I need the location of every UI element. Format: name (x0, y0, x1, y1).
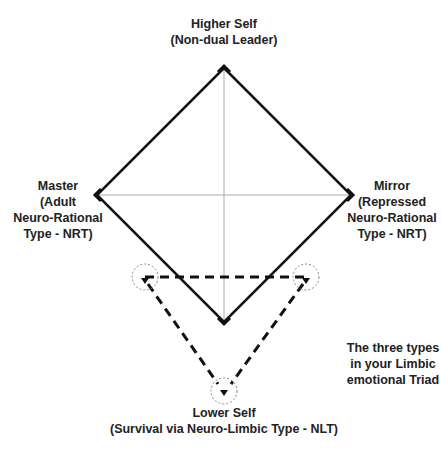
label-line: Lower Self (110, 405, 338, 421)
label-line: emotional Triad (347, 372, 439, 388)
label-line: (Non-dual Leader) (171, 32, 278, 48)
label-line: Type - NRT) (13, 226, 103, 242)
label-line: Master (13, 178, 103, 194)
dashed-left-edge (148, 284, 218, 384)
master-label: Master (Adult Neuro-Rational Type - NRT) (13, 178, 103, 242)
label-line: The three types (347, 340, 439, 356)
label-line: Mirror (347, 178, 437, 194)
label-line: (Adult (13, 194, 103, 210)
label-line: Type - NRT) (347, 226, 437, 242)
mirror-label: Mirror (Repressed Neuro-Rational Type - … (347, 178, 437, 242)
dashed-right-edge (231, 284, 303, 384)
higher-self-label: Higher Self (Non-dual Leader) (171, 16, 278, 48)
label-line: Neuro-Rational (13, 210, 103, 226)
right-arrowhead-icon (302, 278, 310, 284)
label-line: Higher Self (171, 16, 278, 32)
label-line: (Repressed (347, 194, 437, 210)
triad-note: The three types in your Limbic emotional… (347, 340, 439, 388)
lower-self-label: Lower Self (Survival via Neuro-Limbic Ty… (110, 405, 338, 437)
label-line: Neuro-Rational (347, 210, 437, 226)
bottom-arrowhead-icon (220, 390, 228, 396)
label-line: (Survival via Neuro-Limbic Type - NLT) (110, 421, 338, 437)
label-line: in your Limbic (347, 356, 439, 372)
left-arrowhead-icon (141, 278, 149, 284)
